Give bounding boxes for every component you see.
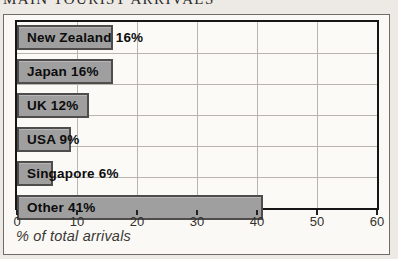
bar-label-new-zealand: New Zealand 16%: [27, 27, 143, 48]
x-axis-tick-label: 20: [130, 214, 144, 229]
bar-row: Singapore 6%: [17, 161, 377, 192]
bar-row: UK 12%: [17, 93, 377, 124]
x-axis-tick-label: 50: [310, 214, 324, 229]
x-axis-tick-label: 10: [70, 214, 84, 229]
bar-row: USA 9%: [17, 127, 377, 158]
x-axis-tick-label: 0: [13, 214, 20, 229]
x-axis-tick-label: 30: [190, 214, 204, 229]
bar-japan: Japan 16%: [17, 59, 113, 84]
bar-label-japan: Japan 16%: [27, 61, 99, 82]
bar-label-uk: UK 12%: [27, 95, 78, 116]
page-title: MAIN TOURIST ARRIVALS: [3, 0, 215, 8]
bar-label-singapore: Singapore 6%: [27, 163, 119, 184]
x-axis-tick-label: 40: [250, 214, 264, 229]
x-axis-caption: % of total arrivals: [16, 228, 131, 244]
bar-label-usa: USA 9%: [27, 129, 79, 150]
bar-uk: UK 12%: [17, 93, 89, 118]
plot-area: New Zealand 16% Japan 16% UK 12% USA 9% …: [15, 20, 379, 210]
bar-row: New Zealand 16%: [17, 25, 377, 56]
bar-row: Japan 16%: [17, 59, 377, 90]
bar-new-zealand: New Zealand 16%: [17, 25, 113, 50]
bar-singapore: Singapore 6%: [17, 161, 53, 186]
x-axis-tick-label: 60: [370, 214, 384, 229]
bar-usa: USA 9%: [17, 127, 71, 152]
chart-frame: New Zealand 16% Japan 16% UK 12% USA 9% …: [3, 14, 390, 255]
bar-label-other: Other 41%: [27, 197, 96, 218]
